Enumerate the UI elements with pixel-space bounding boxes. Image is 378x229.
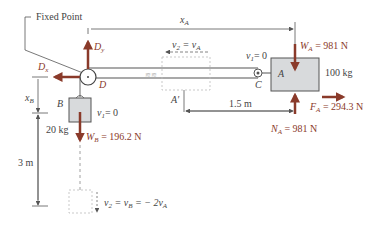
diagram-graphics: ≋≋ bbox=[0, 0, 378, 229]
svg-text:≋≋: ≋≋ bbox=[145, 71, 157, 79]
v1-B-label: v1= 0 bbox=[97, 108, 118, 120]
mass-B-label: 20 kg bbox=[46, 125, 69, 135]
NA-label: NA = 981 N bbox=[271, 124, 317, 136]
fixed-point-leader bbox=[25, 17, 88, 75]
A-label: A bbox=[278, 69, 284, 79]
B-label: B bbox=[57, 99, 63, 109]
v2-vB-label: v2 = vB = − 2vA bbox=[104, 198, 167, 210]
D-label: D bbox=[99, 80, 106, 90]
FA-label: FA = 294.3 N bbox=[310, 102, 363, 114]
dist-3m-label: 3 m bbox=[18, 158, 33, 168]
C-label: C bbox=[255, 80, 262, 90]
xB-label: xB bbox=[25, 93, 34, 105]
Dx-label: Dx bbox=[38, 62, 48, 74]
dist-1-5m-label: 1.5 m bbox=[229, 99, 252, 109]
pulley-system-diagram: ≋≋ Fixed Point xA Dy Dx D v2 = vA v1= 0 … bbox=[0, 0, 378, 229]
mass-A-label: 100 kg bbox=[325, 68, 353, 78]
v2-vA-label: v2 = vA bbox=[172, 40, 200, 52]
Dy-label: Dy bbox=[94, 42, 104, 54]
B-prime-box bbox=[69, 190, 92, 213]
A-prime-label: A′ bbox=[171, 95, 179, 105]
xA-label: xA bbox=[180, 15, 189, 27]
WA-label: WA = 981 N bbox=[300, 41, 348, 53]
A-prime-box bbox=[162, 57, 210, 90]
v1-A-label: v1= 0 bbox=[246, 51, 267, 63]
WB-label: WB = 196.2 N bbox=[86, 132, 142, 144]
fixed-point-label: Fixed Point bbox=[36, 12, 82, 22]
